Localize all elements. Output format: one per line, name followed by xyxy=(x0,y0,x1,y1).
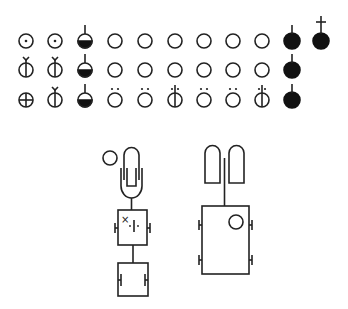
small-circle-icon xyxy=(103,151,117,165)
circle-icon xyxy=(108,34,122,48)
fork-bar-circle-icon xyxy=(19,57,33,77)
dot-circle-icon xyxy=(48,34,62,48)
fork-bar-circle-icon xyxy=(48,87,62,107)
umlaut-bar-circle-icon xyxy=(168,85,182,107)
circle-icon xyxy=(108,63,122,77)
circle-icon xyxy=(226,63,240,77)
circle-icon xyxy=(197,63,211,77)
left-figure: × xyxy=(103,148,150,296)
filled-stem-icon xyxy=(284,25,300,49)
umlaut-bar-circle-icon xyxy=(255,85,269,107)
circle-icon xyxy=(168,63,182,77)
symbol-grid xyxy=(19,16,329,108)
cross-circle-icon xyxy=(19,93,33,107)
circle-icon xyxy=(255,63,269,77)
tab-left xyxy=(205,146,220,183)
diagram-svg: × xyxy=(0,0,348,309)
circle-icon xyxy=(197,34,211,48)
umlaut-circle-icon xyxy=(197,88,211,107)
main-box xyxy=(202,206,249,274)
tab-right xyxy=(229,146,244,183)
circle-icon xyxy=(229,215,243,229)
x-mark: × xyxy=(121,214,129,225)
circle-icon xyxy=(138,63,152,77)
lower-box xyxy=(118,263,148,296)
right-figure xyxy=(199,146,252,274)
filled-stem-icon xyxy=(284,54,300,78)
diagram-canvas: × xyxy=(0,0,348,309)
circle-icon xyxy=(168,34,182,48)
dot-left xyxy=(129,225,131,227)
half-filled-stem-icon xyxy=(78,54,92,77)
umlaut-circle-icon xyxy=(108,88,122,107)
filled-stem-icon xyxy=(284,84,300,108)
circle-icon xyxy=(226,34,240,48)
dot-right xyxy=(137,225,139,227)
umlaut-circle-icon xyxy=(138,88,152,107)
umlaut-circle-icon xyxy=(226,88,240,107)
dot-circle-icon xyxy=(19,34,33,48)
circle-icon xyxy=(255,34,269,48)
half-filled-stem-icon xyxy=(78,25,92,48)
filled-cross-stem-icon xyxy=(313,16,329,49)
capsule-inner xyxy=(127,168,136,186)
fork-bar-circle-icon xyxy=(48,57,62,77)
half-filled-stem-icon xyxy=(78,84,92,107)
circle-icon xyxy=(138,34,152,48)
